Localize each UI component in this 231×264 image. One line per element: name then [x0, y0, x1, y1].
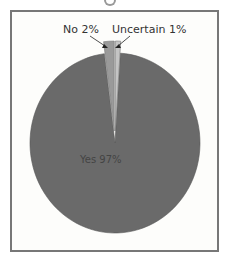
label-yes: Yes 97%	[79, 154, 122, 165]
label-uncertain: Uncertain 1%	[112, 23, 186, 36]
slice-yes	[30, 53, 200, 233]
pie-chart: No 2% Uncertain 1% Yes 97%	[0, 0, 231, 264]
no-leader-line	[90, 36, 105, 46]
label-no: No 2%	[63, 23, 99, 36]
